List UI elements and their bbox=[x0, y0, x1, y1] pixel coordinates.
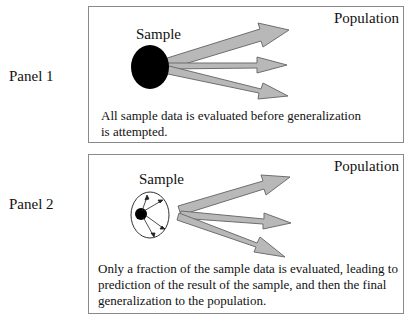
panel-2-label: Panel 2 bbox=[9, 196, 54, 213]
generalization-arrows bbox=[177, 175, 291, 257]
panel-1-caption: All sample data is evaluated before gene… bbox=[101, 108, 361, 140]
sample-circle bbox=[131, 45, 169, 89]
generalization-arrows bbox=[163, 23, 289, 99]
panel-1: Population Sample All sample data is eva… bbox=[88, 6, 404, 143]
panel-2: Population Sample Only a fraction of the… bbox=[88, 154, 404, 314]
evaluated-fraction-dot bbox=[135, 208, 147, 220]
panel-2-caption: Only a fraction of the sample data is ev… bbox=[98, 261, 398, 309]
panel-1-label: Panel 1 bbox=[9, 68, 54, 85]
